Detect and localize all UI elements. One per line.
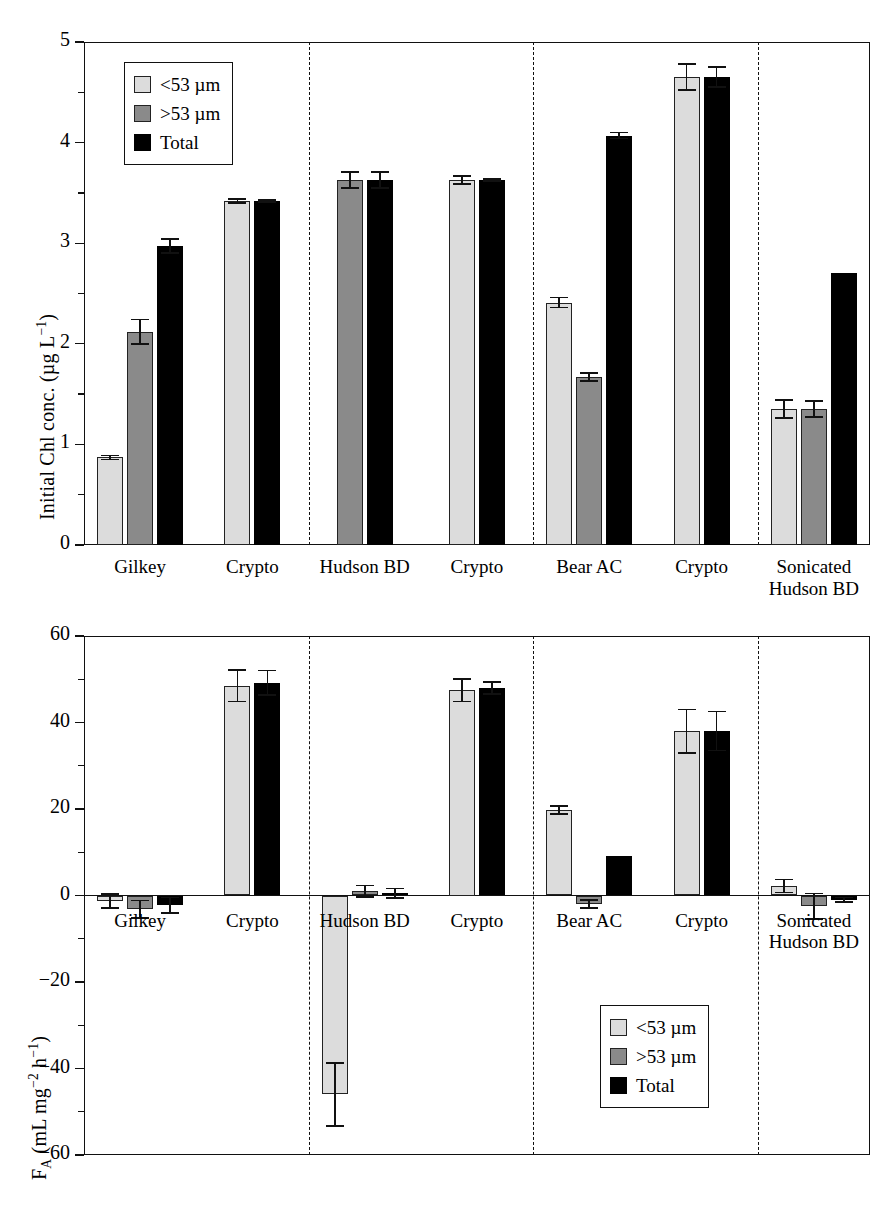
bar-total: [479, 180, 505, 545]
y-tick-major: [75, 544, 84, 545]
chart-panel-top: Initial Chl conc. (µg L−1) 012345 Gilkey…: [0, 0, 878, 610]
error-bar-cap: [131, 900, 149, 902]
error-bar: [491, 682, 493, 694]
error-bar: [267, 671, 269, 695]
group-divider: [533, 42, 534, 545]
y-tick-minor: [78, 1025, 84, 1026]
error-bar-cap: [678, 752, 696, 754]
y-tick-major: [75, 444, 84, 445]
y-tick-label: 40: [0, 709, 70, 732]
y-tick-minor: [78, 192, 84, 193]
x-category-label: Bear AC: [533, 910, 645, 932]
error-bar-cap: [610, 132, 628, 134]
legend-bottom: <53 µm>53 µmTotal: [600, 1005, 709, 1108]
legend-item: >53 µm: [610, 1042, 696, 1071]
bar-light: [97, 457, 123, 545]
x-category-label: Crypto: [421, 910, 533, 932]
error-bar-cap: [805, 400, 823, 402]
legend-swatch-total: [610, 1077, 627, 1094]
error-bar-cap: [775, 399, 793, 401]
error-bar-cap: [580, 372, 598, 374]
error-bar-cap: [386, 888, 404, 890]
error-bar-cap: [386, 897, 404, 899]
bar-dark: [576, 377, 602, 545]
error-bar-cap: [678, 63, 696, 65]
error-bar: [139, 320, 141, 344]
chart-panel-bottom: FA (mL mg−2 h−1) −60−40−200204060 Gilkey…: [0, 610, 878, 1227]
legend-item: >53 µm: [134, 99, 220, 128]
figure-root: Initial Chl conc. (µg L−1) 012345 Gilkey…: [0, 0, 878, 1227]
error-bar: [686, 64, 688, 90]
error-bar-cap: [805, 416, 823, 418]
bar-light: [224, 686, 250, 896]
bar-dark: [801, 409, 827, 545]
error-bar-cap: [228, 202, 246, 204]
error-bar-cap: [580, 380, 598, 382]
error-bar-cap: [101, 455, 119, 457]
bar-total: [704, 731, 730, 895]
error-bar-cap: [356, 885, 374, 887]
error-bar: [813, 401, 815, 417]
error-bar-cap: [708, 750, 726, 752]
x-category-label: Hudson BD: [309, 556, 421, 578]
bar-dark: [337, 180, 363, 545]
error-bar: [334, 1063, 336, 1126]
legend-item: <53 µm: [610, 1013, 696, 1042]
error-bar-cap: [341, 187, 359, 189]
x-category-label: Bear AC: [533, 556, 645, 578]
error-bar-cap: [356, 896, 374, 898]
error-bar-cap: [483, 180, 501, 182]
error-bar-cap: [835, 897, 853, 899]
error-bar-cap: [161, 897, 179, 899]
y-tick-minor: [78, 393, 84, 394]
legend-item: <53 µm: [134, 70, 220, 99]
y-tick-label: −60: [0, 1141, 70, 1164]
error-bar-cap: [258, 694, 276, 696]
y-tick-label: 5: [0, 28, 70, 51]
error-bar-cap: [131, 319, 149, 321]
error-bar: [716, 67, 718, 87]
x-category-label: Crypto: [196, 910, 308, 932]
bar-light: [546, 810, 572, 896]
bar-dark: [127, 332, 153, 545]
error-bar-cap: [580, 899, 598, 901]
error-bar: [783, 879, 785, 892]
error-bar-cap: [161, 238, 179, 240]
legend-item: Total: [134, 128, 220, 157]
y-tick-minor: [78, 293, 84, 294]
legend-label: Total: [160, 132, 199, 154]
legend-swatch-light: [134, 76, 151, 93]
legend-label: >53 µm: [160, 103, 220, 125]
y-tick-minor: [78, 92, 84, 93]
x-category-label: Crypto: [421, 556, 533, 578]
y-tick-minor: [78, 679, 84, 680]
error-bar-cap: [228, 198, 246, 200]
error-bar-cap: [550, 805, 568, 807]
y-tick-major: [75, 1154, 84, 1155]
y-tick-major: [75, 1068, 84, 1069]
y-tick-label: 0: [0, 531, 70, 554]
error-bar-cap: [708, 66, 726, 68]
y-tick-label: 1: [0, 430, 70, 453]
error-bar-cap: [708, 86, 726, 88]
error-bar-cap: [550, 813, 568, 815]
error-bar-cap: [483, 681, 501, 683]
error-bar: [169, 239, 171, 253]
error-bar-cap: [326, 1125, 344, 1127]
bar-total: [254, 201, 280, 545]
y-tick-label: 20: [0, 795, 70, 818]
error-bar-cap: [453, 175, 471, 177]
y-tick-major: [75, 243, 84, 244]
error-bar-cap: [775, 879, 793, 881]
bar-light: [674, 77, 700, 545]
x-category-label: Crypto: [645, 910, 757, 932]
error-bar: [783, 400, 785, 418]
x-category-label: SonicatedHudson BD: [758, 556, 870, 600]
bar-total: [704, 77, 730, 545]
legend-label: >53 µm: [636, 1046, 696, 1068]
error-bar-cap: [341, 171, 359, 173]
y-tick-label: 4: [0, 129, 70, 152]
legend-top: <53 µm>53 µmTotal: [124, 62, 233, 165]
error-bar-cap: [775, 417, 793, 419]
x-category-label: Crypto: [645, 556, 757, 578]
